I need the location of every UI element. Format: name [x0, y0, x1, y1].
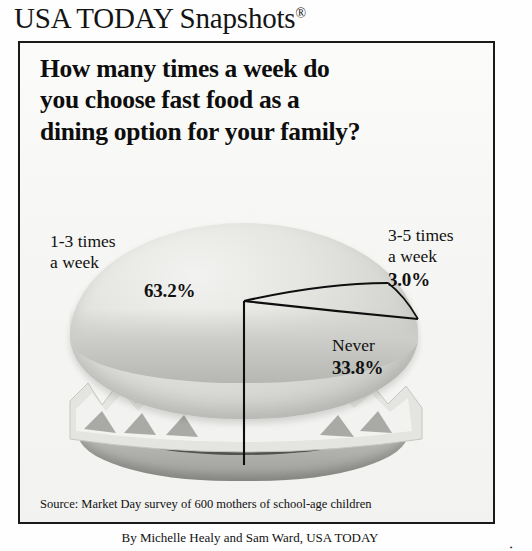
label-3-5-times-a-week: 3-5 times a week 3.0%	[388, 225, 454, 291]
value-63-2-percent: 63.2%	[144, 279, 195, 302]
value-3-0-percent: 3.0%	[388, 268, 454, 291]
headline-line-1: How many times a week do	[40, 53, 440, 84]
label-never-text: Never	[332, 335, 383, 356]
page-title: USA TODAY Snapshots®	[14, 2, 306, 35]
registered-trademark-icon: ®	[295, 6, 306, 21]
hamburger-pie-chart: 1-3 times a week 63.2% 3-5 times a week …	[32, 203, 482, 493]
label-1-3-times-a-week: 1-3 times a week	[50, 231, 116, 274]
snapshot-infographic: USA TODAY Snapshots® USA TODAY. Septembe…	[0, 0, 532, 551]
copyright-credit: USA TODAY. September 17, 2009. Reprinted…	[499, 545, 515, 551]
chart-panel: How many times a week do you choose fast…	[18, 41, 495, 524]
label-3-5-times-line-2: a week	[388, 246, 454, 267]
value-33-8-percent: 33.8%	[332, 356, 383, 379]
headline-line-3: dining option for your family?	[40, 116, 440, 147]
source-note: Source: Market Day survey of 600 mothers…	[40, 497, 372, 512]
headline: How many times a week do you choose fast…	[40, 53, 440, 147]
label-1-3-times-line-2: a week	[50, 252, 116, 273]
label-1-3-times-line-1: 1-3 times	[50, 231, 116, 252]
headline-line-2: you choose fast food as a	[40, 84, 440, 115]
label-3-5-times-line-1: 3-5 times	[388, 225, 454, 246]
slice-edge-3-5-times	[244, 283, 388, 301]
value-1-3-times-a-week: 63.2%	[144, 279, 195, 302]
label-never: Never 33.8%	[332, 335, 383, 380]
byline: By Michelle Healy and Sam Ward, USA TODA…	[0, 530, 500, 546]
masthead-brand: USA TODAY Snapshots	[14, 2, 295, 34]
slice-edge-never	[244, 301, 418, 319]
